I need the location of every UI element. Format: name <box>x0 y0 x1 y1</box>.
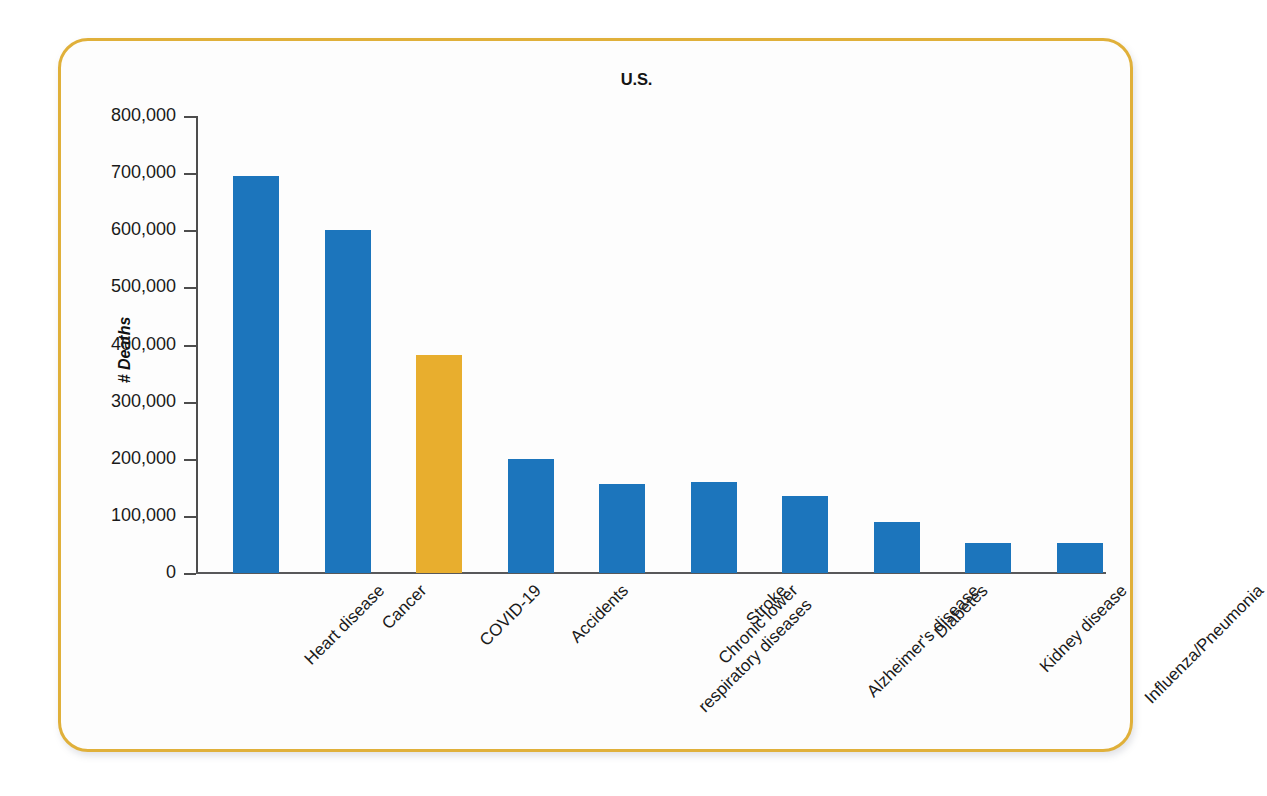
y-axis-tick-label: 600,000 <box>111 219 176 240</box>
y-axis-tick-label: 400,000 <box>111 334 176 355</box>
y-axis-tick-label: 500,000 <box>111 276 176 297</box>
y-axis-tick: 400,000 <box>184 345 196 347</box>
y-axis-tick-label: 800,000 <box>111 105 176 126</box>
bar <box>691 482 737 573</box>
y-axis-tick-label: 0 <box>166 562 176 583</box>
y-axis-tick: 300,000 <box>184 402 196 404</box>
y-axis-tick: 200,000 <box>184 459 196 461</box>
y-axis-tick: 500,000 <box>184 287 196 289</box>
bar <box>416 355 462 573</box>
y-axis-tick: 800,000 <box>184 116 196 118</box>
x-axis-label: COVID-19 <box>476 581 546 651</box>
bar <box>965 543 1011 573</box>
bars-layer <box>198 116 1111 573</box>
x-axis-label: Cancer <box>378 581 431 634</box>
bar <box>233 176 279 573</box>
x-axis-label: Accidents <box>566 581 632 647</box>
figure-card: U.S. # Deaths 0100,000200,000300,000400,… <box>58 38 1133 752</box>
x-axis-label: Heart disease <box>301 581 389 669</box>
bar <box>874 522 920 573</box>
y-axis-tick: 0 <box>184 573 196 575</box>
plot-area: 0100,000200,000300,000400,000500,000600,… <box>196 116 1111 611</box>
x-axis-label: Chronic lower respiratory diseases <box>681 581 817 717</box>
bar <box>782 496 828 573</box>
bar <box>1057 543 1103 573</box>
y-axis-tick-label: 100,000 <box>111 505 176 526</box>
bar <box>325 230 371 573</box>
y-axis-tick: 100,000 <box>184 516 196 518</box>
bar <box>508 459 554 573</box>
x-axis-label: Influenza/Pneumonia <box>1140 581 1267 708</box>
y-axis-tick-label: 300,000 <box>111 391 176 412</box>
y-axis-tick-label: 200,000 <box>111 448 176 469</box>
bar <box>599 484 645 573</box>
y-axis-tick: 600,000 <box>184 230 196 232</box>
chart-title: U.S. <box>61 70 1130 89</box>
x-axis-labels: Heart diseaseCancerCOVID-19AccidentsChro… <box>198 575 1111 755</box>
y-axis-tick-label: 700,000 <box>111 162 176 183</box>
x-axis-label: Kidney disease <box>1036 581 1132 677</box>
y-axis-tick: 700,000 <box>184 173 196 175</box>
